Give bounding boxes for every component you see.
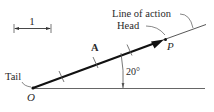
angle-arrow-icon [122, 83, 125, 88]
point-p-label: P [166, 40, 174, 52]
line-of-action [163, 25, 206, 41]
vector-label: A [91, 42, 99, 53]
scale-bar-label: 1 [29, 15, 35, 27]
vector-arrowhead-icon [151, 40, 164, 49]
scale-bar: 1 [14, 15, 51, 33]
scale-arrow-left-icon [14, 27, 19, 30]
angle-indicator: 20° [121, 53, 140, 88]
origin-label: O [27, 91, 35, 103]
vector-diagram: 1 20° A P O Tail Head Line of action [0, 0, 214, 112]
origin-point [31, 86, 34, 89]
line-of-action-label: Line of action [112, 8, 172, 19]
tail-leader-line [22, 82, 31, 87]
tail-label: Tail [5, 71, 21, 82]
head-leader-line [146, 26, 165, 35]
line-of-action-leader [180, 14, 193, 28]
angle-label: 20° [126, 66, 140, 77]
scale-arrow-right-icon [46, 27, 51, 30]
head-label: Head [117, 20, 140, 31]
